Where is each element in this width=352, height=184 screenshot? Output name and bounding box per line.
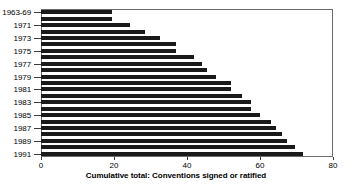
x-axis-title: Cumulative total: Conventions signed or … xyxy=(0,171,352,180)
y-axis-tick-mark xyxy=(34,128,41,129)
y-axis-tick-label: 1971 xyxy=(14,21,31,30)
y-axis-tick-label: 1985 xyxy=(14,111,31,120)
bar-chart: 1963-69197119731975197719791981198319851… xyxy=(0,0,352,184)
bar xyxy=(41,42,176,46)
bar xyxy=(41,126,276,130)
bar xyxy=(41,139,287,143)
x-axis-tick-label: 0 xyxy=(39,161,43,170)
bar xyxy=(41,120,271,124)
x-axis-tick-label: 40 xyxy=(183,161,192,170)
y-axis-tick-mark xyxy=(34,77,41,78)
y-axis-tick-label: 1987 xyxy=(14,124,31,133)
bar xyxy=(41,55,194,59)
y-axis-tick-label: 1983 xyxy=(14,98,31,107)
bar xyxy=(41,75,216,79)
y-axis-tick-label: 1977 xyxy=(14,59,31,68)
y-axis-tick-mark xyxy=(34,51,41,52)
y-axis-tick-label: 1975 xyxy=(14,46,31,55)
y-axis: 1963-69197119731975197719791981198319851… xyxy=(0,9,41,157)
bar xyxy=(41,36,160,40)
y-axis-tick-mark xyxy=(34,25,41,26)
bar xyxy=(41,107,251,111)
bars-layer xyxy=(41,9,333,157)
y-axis-tick-label: 1989 xyxy=(14,136,31,145)
bar xyxy=(41,81,231,85)
y-axis-tick-label: 1979 xyxy=(14,72,31,81)
x-axis-tick-label: 80 xyxy=(329,161,338,170)
x-axis-tick-mark xyxy=(114,157,115,160)
y-axis-tick-label: 1963-69 xyxy=(2,8,31,17)
bar xyxy=(41,132,282,136)
bar xyxy=(41,30,145,34)
bar xyxy=(41,145,295,149)
y-axis-tick-mark xyxy=(34,115,41,116)
x-axis-tick-mark xyxy=(333,157,334,160)
y-axis-tick-label: 1973 xyxy=(14,33,31,42)
bar xyxy=(41,87,231,91)
bar xyxy=(41,62,202,66)
cropped-header-artifact xyxy=(6,0,216,6)
x-axis-tick-label: 20 xyxy=(110,161,119,170)
y-axis-tick-mark xyxy=(34,38,41,39)
y-axis-tick-mark xyxy=(34,102,41,103)
bar xyxy=(41,10,112,14)
y-axis-tick-mark xyxy=(34,12,41,13)
x-axis-tick-label: 60 xyxy=(256,161,265,170)
x-axis-tick-mark xyxy=(260,157,261,160)
x-axis-tick-mark xyxy=(41,157,42,160)
bar xyxy=(41,152,303,156)
y-axis-tick-mark xyxy=(34,154,41,155)
y-axis-tick-mark xyxy=(34,89,41,90)
y-axis-tick-label: 1981 xyxy=(14,85,31,94)
bar xyxy=(41,94,242,98)
x-axis-tick-mark xyxy=(187,157,188,160)
y-axis-tick-mark xyxy=(34,64,41,65)
bar xyxy=(41,23,130,27)
bar xyxy=(41,49,176,53)
bar xyxy=(41,113,260,117)
bar xyxy=(41,17,112,21)
bar xyxy=(41,100,251,104)
y-axis-tick-mark xyxy=(34,141,41,142)
bar xyxy=(41,68,207,72)
